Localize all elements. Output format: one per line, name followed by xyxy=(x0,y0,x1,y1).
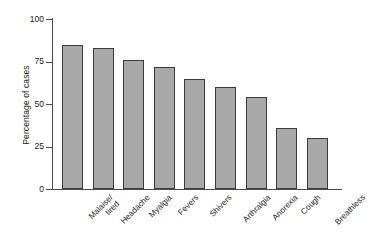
bar xyxy=(215,87,236,189)
y-tick-label-75: 75 xyxy=(18,57,44,66)
bar xyxy=(62,45,83,190)
x-axis-label: Shivers xyxy=(208,193,234,219)
y-tick-label-50: 50 xyxy=(18,100,44,109)
bar xyxy=(93,48,114,189)
x-axis-label: Breathless xyxy=(334,193,368,227)
x-axis-label: Headache xyxy=(119,193,152,226)
plot-area xyxy=(52,19,340,189)
y-tick-label-wrap: 50 xyxy=(14,100,44,109)
y-tick-0 xyxy=(46,189,52,190)
y-tick-label-wrap: 75 xyxy=(14,57,44,66)
x-axis-line xyxy=(52,189,342,190)
bar xyxy=(276,128,297,189)
y-tick-label-25: 25 xyxy=(18,142,44,151)
x-axis-label: Fevers xyxy=(177,193,201,217)
bar xyxy=(246,97,267,189)
y-tick-label-wrap: 100 xyxy=(14,15,44,24)
bar xyxy=(184,79,205,190)
x-axis-label: Arthralgia xyxy=(241,193,272,224)
x-axis-label: Anorexia xyxy=(271,193,300,222)
y-tick-label-100: 100 xyxy=(18,15,44,24)
y-tick-label-wrap: 0 xyxy=(14,185,44,194)
y-tick-label-wrap: 25 xyxy=(14,142,44,151)
x-axis-label: Myalgia xyxy=(147,193,173,219)
bar xyxy=(307,138,328,189)
x-axis-label: Malaise/ tired xyxy=(86,193,121,228)
bar xyxy=(123,60,144,189)
y-tick-label-0: 0 xyxy=(18,185,44,194)
bar xyxy=(154,67,175,189)
x-axis-label: Cough xyxy=(299,193,323,217)
